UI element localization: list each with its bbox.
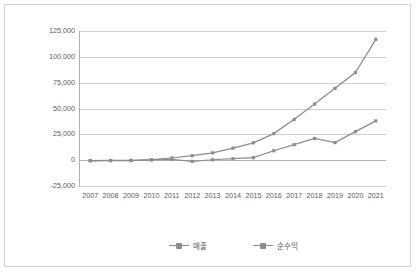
legend-label: 매출 <box>193 240 207 251</box>
data-point-marker <box>313 102 316 105</box>
data-point-marker <box>354 130 357 133</box>
data-point-marker <box>313 137 316 140</box>
data-point-marker <box>293 118 296 121</box>
x-tick-label-2021: 2021 <box>361 191 391 200</box>
data-point-marker <box>211 151 214 154</box>
y-tick-label: 0 <box>13 156 75 164</box>
data-point-marker <box>252 141 255 144</box>
data-point-marker <box>150 158 153 161</box>
legend-item-0[interactable]: 매출 <box>169 240 207 251</box>
data-point-marker <box>293 143 296 146</box>
y-tick-label: 100,000 <box>13 53 75 61</box>
data-point-marker <box>333 87 336 90</box>
chart-frame: 125,000100,00075,00050,00025,0000-25,000… <box>4 4 411 267</box>
data-point-marker <box>129 159 132 162</box>
y-tick-label: 75,000 <box>13 79 75 87</box>
plot-area <box>80 31 386 186</box>
data-point-marker <box>191 154 194 157</box>
data-point-marker <box>231 157 234 160</box>
data-point-marker <box>89 159 92 162</box>
data-point-marker <box>272 132 275 135</box>
legend-label: 순수익 <box>277 240 298 251</box>
y-axis-tick-labels: 125,000100,00075,00050,00025,0000-25,000 <box>11 31 75 186</box>
data-point-marker <box>191 160 194 163</box>
series-line-1 <box>90 121 376 162</box>
data-point-marker <box>374 38 377 41</box>
legend-item-1[interactable]: 순수익 <box>253 240 298 251</box>
data-point-marker <box>374 119 377 122</box>
legend-marker-icon <box>253 241 273 249</box>
data-point-marker <box>333 141 336 144</box>
data-point-marker <box>252 156 255 159</box>
x-axis-tick-labels: 2007200820092010201120122013201420152016… <box>80 191 386 205</box>
chart-legend: 매출순수익 <box>80 237 386 253</box>
y-tick-label: 125,000 <box>13 27 75 35</box>
gridline--25000 <box>80 186 386 187</box>
data-point-marker <box>231 147 234 150</box>
legend-marker-icon <box>169 241 189 249</box>
data-point-marker <box>170 158 173 161</box>
data-point-marker <box>354 71 357 74</box>
data-point-marker <box>211 158 214 161</box>
series-lines <box>80 31 386 186</box>
data-point-marker <box>272 149 275 152</box>
y-tick-label: -25,000 <box>13 182 75 190</box>
data-point-marker <box>109 159 112 162</box>
y-tick-label: 50,000 <box>13 105 75 113</box>
y-tick-label: 25,000 <box>13 130 75 138</box>
